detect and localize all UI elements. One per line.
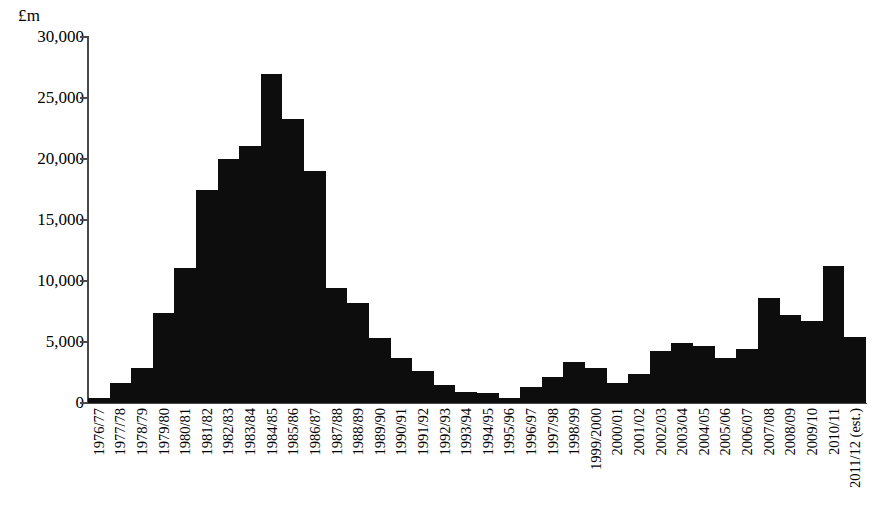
x-tick-label: 1989/90	[372, 408, 387, 456]
x-label-cell: 2006/07	[736, 406, 758, 518]
y-tick-label: 25,000	[14, 88, 88, 108]
bar	[520, 387, 542, 403]
x-tick-label: 1988/89	[351, 408, 366, 456]
x-label-cell: 1990/91	[391, 406, 413, 518]
x-tick-label: 2000/01	[610, 408, 625, 456]
y-tick-mark	[80, 280, 88, 282]
x-tick-label: 2004/05	[697, 408, 712, 456]
y-tick-label: 30,000	[14, 27, 88, 47]
x-tick-label: 1995/96	[502, 408, 517, 456]
y-tick-label: 10,000	[14, 271, 88, 291]
bar	[110, 383, 132, 403]
x-tick-label: 1984/85	[264, 408, 279, 456]
bar	[844, 337, 866, 403]
x-label-cell: 1979/80	[153, 406, 175, 518]
x-tick-label: 1999/2000	[589, 408, 604, 470]
x-label-cell: 1989/90	[369, 406, 391, 518]
bar	[563, 362, 585, 403]
x-tick-label: 2006/07	[740, 408, 755, 456]
x-tick-label: 1998/99	[567, 408, 582, 456]
x-label-cell: 2000/01	[607, 406, 629, 518]
x-label-cell: 1999/2000	[585, 406, 607, 518]
x-label-cell: 2005/06	[715, 406, 737, 518]
x-tick-label: 2010/11	[826, 408, 841, 455]
x-label-cell: 1998/99	[563, 406, 585, 518]
bar	[607, 383, 629, 403]
x-tick-label: 1992/93	[437, 408, 452, 456]
x-tick-label: 2009/10	[805, 408, 820, 456]
plot-area	[88, 37, 866, 403]
x-tick-label: 2002/03	[653, 408, 668, 456]
bar	[239, 146, 261, 403]
x-label-cell: 1996/97	[520, 406, 542, 518]
x-tick-label: 1983/84	[243, 408, 258, 456]
x-tick-label: 1979/80	[156, 408, 171, 456]
x-tick-label: 1986/87	[308, 408, 323, 456]
x-label-cell: 1984/85	[261, 406, 283, 518]
x-label-cell: 1977/78	[110, 406, 132, 518]
bar	[174, 268, 196, 403]
x-tick-label: 2003/04	[675, 408, 690, 456]
x-tick-label: 1993/94	[459, 408, 474, 456]
x-tick-label: 1994/95	[481, 408, 496, 456]
bar-chart-figure: £m 30,00025,00020,00015,00010,0005,0000 …	[0, 0, 875, 519]
bar	[304, 171, 326, 403]
bar	[218, 159, 240, 403]
bar	[542, 377, 564, 403]
y-tick-mark	[80, 402, 88, 404]
x-label-cell: 1985/86	[282, 406, 304, 518]
x-tick-label: 1977/78	[113, 408, 128, 456]
x-label-cell: 1988/89	[347, 406, 369, 518]
bar	[153, 313, 175, 403]
bar	[477, 393, 499, 403]
x-tick-label: 1978/79	[135, 408, 150, 456]
x-label-cell: 2011/12 (est.)	[844, 406, 866, 518]
y-axis-unit-label: £m	[18, 6, 40, 26]
bar	[131, 368, 153, 403]
bar	[369, 338, 391, 403]
bar	[650, 351, 672, 403]
x-label-cell: 1994/95	[477, 406, 499, 518]
x-tick-label: 1982/83	[221, 408, 236, 456]
bar	[412, 371, 434, 403]
bar	[715, 358, 737, 403]
x-tick-label: 2008/09	[783, 408, 798, 456]
x-tick-label: 1991/92	[416, 408, 431, 456]
bar	[282, 119, 304, 403]
bar	[628, 374, 650, 403]
y-tick-mark	[80, 36, 88, 38]
x-label-cell: 2008/09	[780, 406, 802, 518]
x-label-cell: 2007/08	[758, 406, 780, 518]
x-label-cell: 1987/88	[326, 406, 348, 518]
y-tick-label: 15,000	[14, 210, 88, 230]
x-tick-label: 1997/98	[545, 408, 560, 456]
x-tick-label: 2011/12 (est.)	[848, 408, 863, 488]
bar	[347, 303, 369, 403]
x-label-cell: 1991/92	[412, 406, 434, 518]
bar	[434, 385, 456, 403]
bar	[758, 298, 780, 403]
bar	[391, 358, 413, 403]
bar	[196, 190, 218, 404]
bar	[736, 349, 758, 403]
x-tick-label: 1987/88	[329, 408, 344, 456]
bar	[671, 343, 693, 403]
x-tick-label: 1980/81	[178, 408, 193, 456]
x-label-cell: 1982/83	[218, 406, 240, 518]
x-tick-label: 2001/02	[632, 408, 647, 456]
x-label-cell: 1983/84	[239, 406, 261, 518]
x-tick-label: 1981/82	[200, 408, 215, 456]
y-tick-label: 5,000	[14, 332, 88, 352]
bar	[326, 288, 348, 403]
y-tick-mark	[80, 158, 88, 160]
x-tick-label: 2005/06	[718, 408, 733, 456]
x-label-cell: 1980/81	[174, 406, 196, 518]
bar	[88, 398, 110, 403]
x-label-cell: 1995/96	[499, 406, 521, 518]
x-label-cell: 2004/05	[693, 406, 715, 518]
x-label-cell: 1981/82	[196, 406, 218, 518]
x-label-cell: 2010/11	[823, 406, 845, 518]
x-label-cell: 2001/02	[628, 406, 650, 518]
y-tick-label: 0	[14, 393, 88, 413]
x-tick-label: 1976/77	[92, 408, 107, 456]
